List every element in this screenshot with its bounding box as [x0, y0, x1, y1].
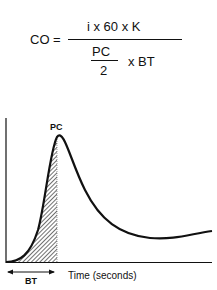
bt-label: BT	[25, 276, 37, 286]
dilution-curve-graph	[0, 0, 217, 290]
peak-label: PC	[50, 122, 63, 132]
x-axis-label: Time (seconds)	[68, 270, 137, 281]
bt-shaded-area	[6, 137, 57, 262]
